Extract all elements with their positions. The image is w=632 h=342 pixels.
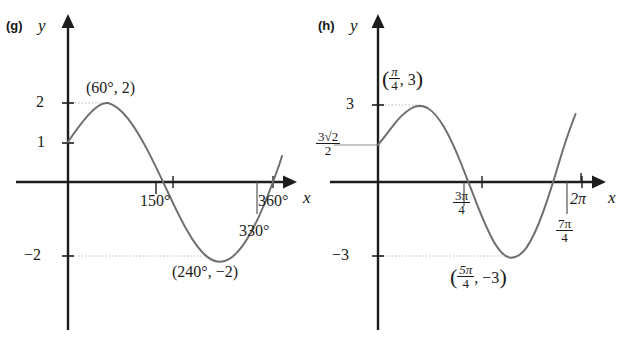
panel-h-ytick-3root2-denominator: 2 — [316, 144, 340, 157]
panel-g-x-axis-label: x — [303, 188, 311, 208]
panel-h-xtick-3pi-denominator: 4 — [453, 203, 470, 216]
panel-g-ytick-label-1: 1 — [37, 133, 45, 151]
panel-h-xtick-3pi-numerator: 3π — [453, 189, 470, 203]
panel-h-xtick-label-3pi-over-4: 3π 4 — [453, 190, 470, 218]
panel-g-x-axis-arrow — [283, 176, 297, 189]
panel-h-max-point-label: ( π 4 , 3) — [382, 66, 423, 94]
panel-g-ytick-label-neg2: −2 — [24, 246, 41, 264]
panel-h-ytick-label-3root2-over-2: 3√2 2 — [316, 131, 340, 159]
panel-h-max-y-value: 3 — [408, 71, 416, 88]
panel-g-ytick-label-2: 2 — [36, 93, 44, 111]
panel-g-xtick-label-150: 150° — [140, 192, 170, 210]
panel-h-min-point-label: ( 5π 4 , −3) — [450, 264, 507, 292]
panel-h: (h) y 3 — [316, 0, 632, 342]
min-label-close-paren: ) — [499, 264, 506, 289]
panel-g-plot — [0, 0, 316, 342]
panel-h-y-axis-arrow — [372, 14, 385, 28]
panel-h-min-denominator: 4 — [457, 277, 474, 290]
panel-h-x-axis-arrow — [592, 176, 606, 189]
panel-g: (g) y 2 1 −2 150° — [0, 0, 316, 342]
panel-h-min-numerator: 5π — [457, 263, 474, 277]
panel-h-min-y-value: −3 — [482, 269, 499, 286]
panel-h-ytick-label-neg3: −3 — [332, 246, 349, 264]
max-label-comma: , — [400, 71, 408, 88]
panel-g-max-point-label: (60°, 2) — [86, 79, 135, 97]
panel-h-xtick-7pi-denominator: 4 — [556, 231, 573, 244]
panel-h-max-denominator: 4 — [389, 79, 400, 92]
panel-g-min-point-label: (240°, −2) — [172, 263, 238, 281]
panel-h-ytick-3root2-numerator: 3√2 — [316, 130, 340, 144]
figure-two-sine-graphs: (g) y 2 1 −2 150° — [0, 0, 632, 342]
panel-h-ytick-label-3: 3 — [346, 95, 354, 113]
panel-g-xtick-label-360: 360° — [258, 192, 288, 210]
panel-h-max-numerator: π — [389, 65, 400, 79]
panel-h-xtick-label-7pi-over-4: 7π 4 — [556, 218, 573, 246]
max-label-close-paren: ) — [416, 66, 423, 91]
panel-g-y-axis-arrow — [62, 14, 75, 28]
panel-g-xtick-label-330: 330° — [239, 222, 269, 240]
panel-h-xtick-label-2pi: 2π — [570, 190, 586, 208]
panel-h-xtick-7pi-numerator: 7π — [556, 217, 573, 231]
min-label-open-paren: ( — [450, 264, 457, 289]
panel-h-x-axis-label: x — [608, 188, 616, 208]
max-label-open-paren: ( — [382, 66, 389, 91]
